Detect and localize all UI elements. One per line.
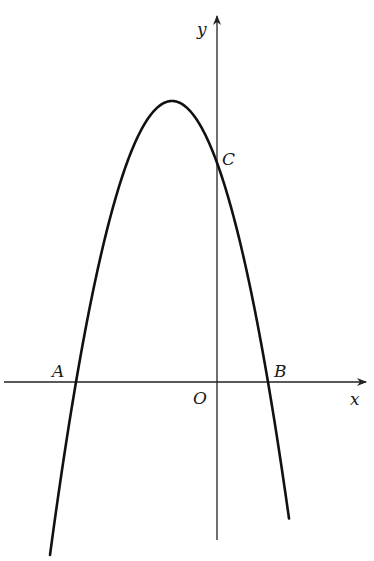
point-b-label: B: [273, 361, 287, 381]
point-c-label: C: [222, 149, 235, 169]
y-axis-label: y: [196, 19, 207, 39]
point-a-label: A: [50, 361, 64, 381]
origin-label: O: [193, 388, 207, 408]
parabola-curve: [50, 101, 289, 555]
x-axis-label: x: [350, 389, 360, 409]
parabola-diagram: y x O A B C: [0, 0, 374, 561]
